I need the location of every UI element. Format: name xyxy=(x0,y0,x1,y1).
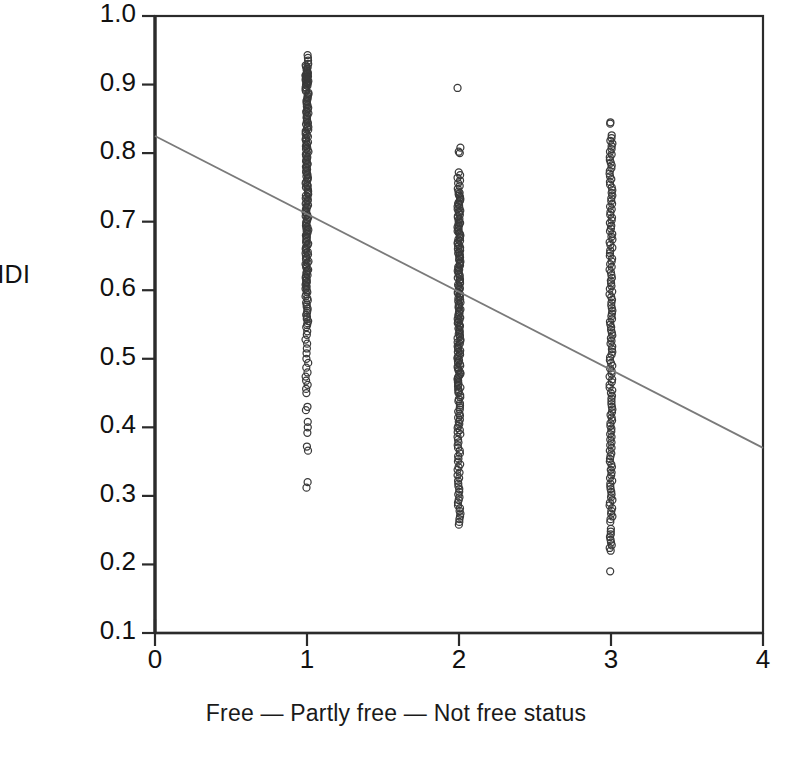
plot-canvas xyxy=(0,0,792,759)
data-point xyxy=(304,369,311,376)
series-2 xyxy=(454,84,464,528)
series-3 xyxy=(606,119,616,575)
plot-frame xyxy=(155,16,763,633)
axis-ticks xyxy=(142,16,763,646)
data-point xyxy=(607,568,614,575)
series-1 xyxy=(302,52,312,492)
data-point xyxy=(302,336,309,343)
data-points xyxy=(302,52,616,575)
data-point xyxy=(305,447,312,454)
plot-frame-rect xyxy=(155,16,763,633)
data-point xyxy=(303,390,310,397)
data-point xyxy=(454,84,461,91)
data-point xyxy=(303,377,310,384)
data-point xyxy=(304,381,311,388)
scatter-plot-figure: HDI 0.10.20.30.40.50.60.70.80.91.0 01234… xyxy=(0,0,792,759)
